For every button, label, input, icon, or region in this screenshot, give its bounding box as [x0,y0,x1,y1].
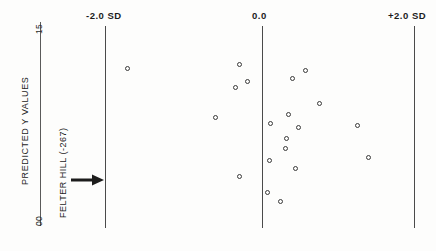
data-point [265,190,270,195]
data-point [366,155,371,160]
data-point [213,115,218,120]
data-point [237,62,242,67]
data-point [283,146,288,151]
reference-line-minus-two-sd [105,26,106,228]
scatter-plot-figure: 15 00 PREDICTED Y VALUES -2.0 SD 0.0 +2.… [0,0,436,251]
data-point [284,136,289,141]
y-axis-line [40,22,41,226]
data-point [278,199,283,204]
data-point [233,85,238,90]
data-point [245,79,250,84]
annotation-right-arrow-icon [70,173,106,187]
data-point [286,112,291,117]
sd-label-plus-two: +2.0 SD [388,10,426,21]
reference-line-plus-two-sd [414,26,415,228]
data-point [268,121,273,126]
y-axis-tick-bottom: 00 [34,216,44,226]
y-axis-title: PREDICTED Y VALUES [20,77,30,185]
data-point [355,123,360,128]
data-point [290,76,295,81]
data-point [267,158,272,163]
reference-line-zero-sd [262,26,263,228]
data-point [293,166,298,171]
data-point [125,66,130,71]
y-axis-tick-top: 15 [34,24,44,34]
annotation-label-felter-hill: FELTER HILL (-267) [58,127,68,218]
data-point [317,101,322,106]
data-point [296,125,301,130]
data-point [237,174,242,179]
sd-label-zero: 0.0 [252,10,267,21]
data-point [303,68,308,73]
sd-label-minus-two: -2.0 SD [86,10,122,21]
